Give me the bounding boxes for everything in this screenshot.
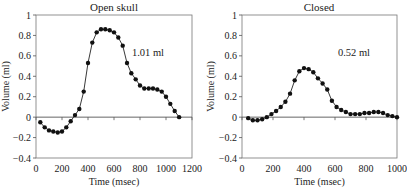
data-point: [77, 107, 81, 111]
data-point: [129, 71, 133, 75]
chart-title: Open skull: [90, 1, 138, 13]
x-tick-label: 1000: [387, 163, 407, 174]
data-point: [251, 118, 255, 122]
data-point: [125, 61, 129, 65]
data-point: [330, 99, 334, 103]
data-point: [82, 89, 86, 93]
data-point: [283, 100, 287, 104]
data-point: [320, 81, 324, 85]
y-tick-label: 0.8: [225, 30, 238, 41]
data-point: [297, 69, 301, 73]
data-point: [51, 129, 55, 133]
data-point: [279, 105, 283, 109]
x-tick-label: 200: [266, 163, 281, 174]
data-point: [386, 113, 390, 117]
data-point: [358, 112, 362, 116]
plot-frame: [36, 15, 192, 158]
data-point: [160, 89, 164, 93]
data-point: [138, 83, 142, 87]
data-point: [173, 109, 177, 113]
y-tick-label: 1: [232, 10, 237, 21]
plot-frame: [242, 15, 397, 158]
data-point: [121, 43, 125, 47]
x-tick-label: 600: [328, 163, 343, 174]
y-tick-label: 0.6: [19, 50, 32, 61]
y-tick-label: −0.2: [13, 132, 31, 143]
data-point: [265, 115, 269, 119]
y-tick-label: 0.4: [19, 71, 32, 82]
data-point: [288, 91, 292, 95]
data-point: [108, 28, 112, 32]
y-tick-label: 0.2: [19, 91, 32, 102]
y-tick-label: −0.4: [219, 153, 237, 164]
data-point: [142, 86, 146, 90]
figure: −0.4−0.200.20.40.60.81020040060080010001…: [0, 0, 407, 188]
data-point: [311, 70, 315, 74]
chart-title: Closed: [304, 1, 335, 13]
x-tick-label: 200: [55, 163, 70, 174]
data-point: [372, 110, 376, 114]
chart-closed: −0.4−0.200.20.40.60.8102004006008001000C…: [205, 1, 407, 188]
data-point: [99, 27, 103, 31]
data-point: [95, 30, 99, 34]
x-tick-label: 600: [107, 163, 122, 174]
data-point: [112, 30, 116, 34]
data-point: [260, 117, 264, 121]
data-point: [395, 115, 399, 119]
data-point: [90, 40, 94, 44]
data-point: [306, 67, 310, 71]
data-point: [147, 86, 151, 90]
data-point: [344, 110, 348, 114]
data-point: [151, 86, 155, 90]
data-point: [73, 113, 77, 117]
y-axis-label: Volume (ml): [0, 61, 12, 112]
data-point: [316, 76, 320, 80]
x-tick-label: 400: [81, 163, 96, 174]
volume-annotation: 1.01 ml: [132, 47, 164, 58]
data-point: [43, 125, 47, 129]
y-tick-label: 1: [26, 10, 31, 21]
x-tick-label: 800: [359, 163, 374, 174]
data-point: [390, 114, 394, 118]
data-point: [255, 118, 259, 122]
x-tick-label: 800: [133, 163, 148, 174]
x-axis-label: Time (msec): [294, 176, 344, 188]
data-point: [334, 105, 338, 109]
x-axis-label: Time (msec): [89, 176, 139, 188]
data-point: [376, 110, 380, 114]
y-tick-label: 0.8: [19, 30, 32, 41]
data-point: [168, 102, 172, 106]
y-axis-label: Volume (ml): [205, 61, 217, 112]
data-point: [348, 112, 352, 116]
data-point: [269, 112, 273, 116]
y-tick-label: −0.4: [13, 153, 31, 164]
y-tick-label: 0.4: [225, 71, 238, 82]
data-point: [381, 111, 385, 115]
chart-open-skull: −0.4−0.200.20.40.60.81020040060080010001…: [0, 1, 202, 188]
data-point: [177, 115, 181, 119]
y-tick-label: 0: [26, 112, 31, 123]
y-tick-label: 0.6: [225, 50, 238, 61]
data-point: [367, 111, 371, 115]
data-point: [274, 109, 278, 113]
data-point: [86, 61, 90, 65]
x-tick-label: 0: [240, 163, 245, 174]
data-point: [293, 78, 297, 82]
volume-annotation: 0.52 ml: [338, 47, 370, 58]
data-point: [302, 66, 306, 70]
data-point: [64, 125, 68, 129]
data-point: [134, 77, 138, 81]
x-tick-label: 1000: [156, 163, 176, 174]
data-point: [155, 87, 159, 91]
x-tick-label: 400: [297, 163, 312, 174]
x-tick-label: 1200: [182, 163, 202, 174]
data-point: [38, 120, 42, 124]
y-tick-label: −0.2: [219, 132, 237, 143]
y-tick-label: 0.2: [225, 91, 238, 102]
data-point: [56, 130, 60, 134]
y-tick-label: 0: [232, 112, 237, 123]
data-point: [325, 87, 329, 91]
data-point: [47, 128, 51, 132]
x-tick-label: 0: [34, 163, 39, 174]
data-point: [362, 111, 366, 115]
